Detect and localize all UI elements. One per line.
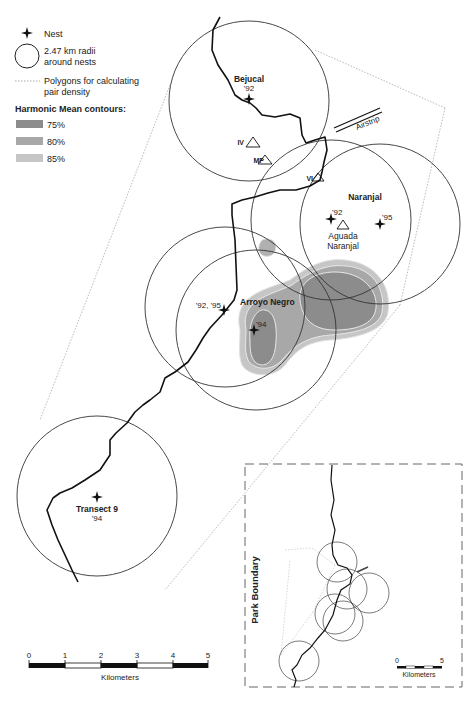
contour-75-swatch: [16, 120, 43, 128]
airstrip: Airstrip: [334, 108, 382, 132]
label-aguada-1: Aguada: [328, 231, 358, 241]
legend-polygon-label-1: Polygons for calculating: [44, 76, 139, 86]
marker-mp-label: MP: [254, 157, 265, 164]
marker-vi-label: VI: [306, 175, 313, 182]
nest-icon: [21, 27, 33, 39]
label-naranjal: Naranjal: [348, 192, 382, 202]
label-naranjal-92: '92: [332, 208, 343, 217]
map-canvas: Nest 2.47 km radii around nests Polygons…: [0, 0, 475, 701]
scale-tick-5: 5: [206, 651, 211, 660]
label-bejucal: Bejucal: [234, 74, 264, 84]
legend-radius-label-2: around nests: [44, 57, 97, 67]
legend-nest-label: Nest: [44, 29, 63, 39]
contour-75-label: 75%: [47, 120, 65, 130]
inset-scale-tick-0: 0: [395, 657, 399, 664]
inset-scale-unit: Kilometers: [402, 671, 436, 678]
radius-circle-icon: [15, 44, 39, 68]
scale-tick-4: 4: [171, 651, 176, 660]
label-arroyo-9295: '92, '95: [196, 301, 222, 310]
contour-75-west: [250, 310, 277, 365]
scale-tick-1: 1: [63, 651, 68, 660]
scale-tick-3: 3: [135, 651, 140, 660]
label-bejucal-year: '92: [244, 84, 255, 93]
park-boundary: [245, 464, 462, 687]
marker-iv-label: IV: [237, 139, 244, 146]
label-aguada-2: Naranjal: [327, 241, 359, 251]
contour-80-swatch: [16, 137, 43, 145]
legend-contours-title: Harmonic Mean contours:: [15, 104, 126, 114]
inset-scale-bar: 0 5 Kilometers: [395, 657, 444, 678]
contour-small-blob: [259, 239, 276, 256]
scale-tick-0: 0: [27, 651, 32, 660]
inset-map: Park Boundary 0 5 Kilometers: [245, 464, 462, 687]
contour-85-swatch: [16, 154, 43, 162]
scale-bar: 0 1 2 3 4 5 Kilometers: [27, 651, 211, 682]
nest-bejucal-icon: [243, 93, 255, 105]
scale-unit: Kilometers: [101, 673, 139, 682]
triangle-iv-icon: [246, 137, 260, 147]
label-arroyo-negro: Arroyo Negro: [240, 297, 295, 307]
label-transect9: Transect 9: [76, 504, 118, 514]
nest-transect9-icon: [91, 491, 103, 503]
triangle-aguada-icon: [337, 220, 349, 229]
contour-85-label: 85%: [47, 154, 65, 164]
label-transect9-year: '94: [92, 514, 103, 523]
legend-radius-label-1: 2.47 km radii: [44, 46, 96, 56]
legend: Nest 2.47 km radii around nests Polygons…: [15, 27, 139, 164]
label-naranjal-95: '95: [382, 213, 393, 222]
inset-scale-tick-5: 5: [440, 657, 444, 664]
legend-polygon-label-2: pair density: [44, 87, 91, 97]
contour-80-label: 80%: [47, 137, 65, 147]
scale-tick-2: 2: [99, 651, 104, 660]
park-boundary-label: Park Boundary: [249, 555, 260, 623]
airstrip-label: Airstrip: [354, 114, 381, 132]
label-arroyo-94: '94: [256, 320, 267, 329]
